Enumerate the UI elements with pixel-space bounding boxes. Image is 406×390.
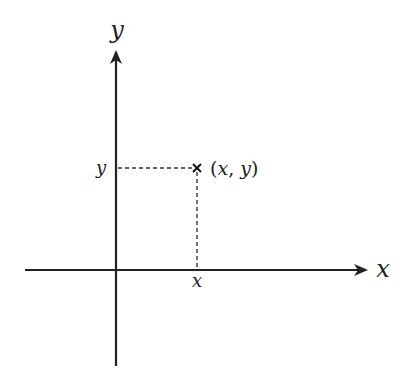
- diagram-canvas: y x y x (x, y): [0, 0, 406, 390]
- point-label-x: x: [217, 157, 228, 179]
- y-axis-label: y: [109, 16, 124, 44]
- point-label-open: (: [210, 157, 217, 179]
- y-tick-label: y: [95, 157, 107, 178]
- x-axis-label: x: [376, 255, 390, 283]
- x-tick-label: x: [192, 270, 202, 291]
- point-label: (x, y): [210, 157, 258, 179]
- coordinate-diagram: y x y x (x, y): [0, 0, 406, 390]
- point-cross-icon: [193, 164, 201, 172]
- point-label-y: y: [239, 157, 251, 179]
- point-label-sep: ,: [228, 157, 240, 179]
- point-label-close: ): [251, 157, 258, 179]
